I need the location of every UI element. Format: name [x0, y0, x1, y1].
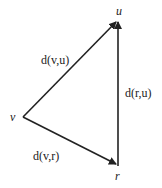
triangle-diagram: u v r d(v,u) d(r,u) d(v,r): [0, 0, 162, 188]
edge-label-r-u: d(r,u): [125, 86, 152, 100]
vertex-label-u: u: [116, 4, 122, 18]
vertex-label-r: r: [115, 169, 120, 183]
edge-label-v-u: d(v,u): [41, 53, 69, 67]
vertex-label-v: v: [10, 110, 16, 124]
edge-label-v-r: d(v,r): [33, 149, 59, 163]
edge-v-u: [23, 22, 116, 117]
